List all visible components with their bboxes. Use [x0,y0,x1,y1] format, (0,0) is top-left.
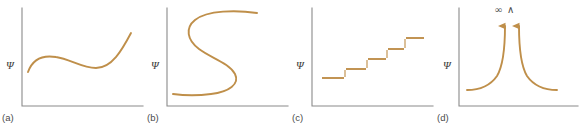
figure-panel-b: Ψ (b) [145,0,290,125]
panel-b-y-axis-label: Ψ [151,60,159,71]
panel-c-curve [322,38,424,78]
panel-c-caption: (c) [292,113,303,123]
figure-panel-row: Ψ (a) Ψ (b) [0,0,581,125]
panel-b-plot [145,0,290,125]
panel-c-y-axis-label: Ψ [296,60,304,71]
panel-b-curve [173,11,257,95]
panel-d-curve-left [467,26,505,90]
panel-a-plot [0,0,145,125]
panel-d-caption: (d) [437,113,449,123]
panel-b-caption: (b) [147,113,159,123]
panel-c-plot [290,0,435,125]
panel-a-y-axis-label: Ψ [6,60,14,71]
panel-a-curve [28,33,131,72]
figure-panel-d: ∞ ∧ Ψ (d) [435,0,580,125]
panel-d-infinity-annotation: ∞ ∧ [495,5,515,15]
panel-d-y-axis-label: Ψ [443,60,451,71]
panel-d-axes [459,8,578,106]
panel-a-caption: (a) [2,113,14,123]
panel-c-axes [312,8,433,106]
panel-d-curve-right [519,26,557,90]
figure-panel-c: Ψ (c) [290,0,435,125]
panel-d-plot [435,0,580,125]
figure-panel-a: Ψ (a) [0,0,145,125]
panel-b-axes [167,8,288,106]
panel-a-axes [22,8,143,106]
